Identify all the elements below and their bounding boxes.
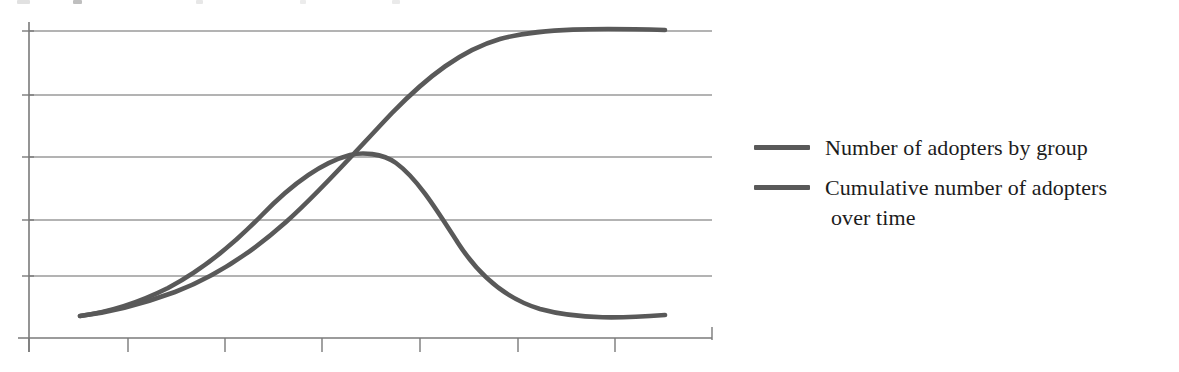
legend-item-number-of-adopters[interactable]: Number of adopters by group — [754, 133, 1174, 163]
axes — [18, 22, 712, 352]
legend-label-cumulative-adopters: Cumulative number of adopters — [825, 173, 1174, 203]
legend-item-cumulative-adopters[interactable]: Cumulative number of adopters over time — [754, 173, 1174, 233]
legend-label-number-of-adopters: Number of adopters by group — [825, 133, 1174, 163]
y-axis-ticks — [22, 31, 34, 276]
x-axis-ticks — [29, 327, 712, 352]
chart-legend: Number of adopters by group Cumulative n… — [754, 133, 1174, 233]
adoption-curve-figure: Number of adopters by group Cumulative n… — [0, 0, 1179, 372]
legend-label-cumulative-adopters-line2: over time — [825, 203, 1174, 233]
series-line-cumulative-number-of-adopters — [80, 29, 665, 316]
legend-swatch-line-icon — [754, 145, 810, 150]
legend-swatch-line-icon — [754, 185, 810, 190]
